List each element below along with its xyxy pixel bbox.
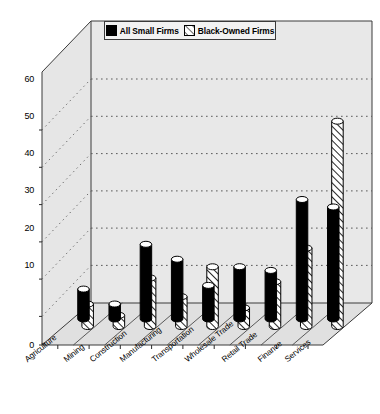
y-tick-label: 20 (12, 224, 34, 233)
chart-legend: All Small Firms Black-Owned Firms (104, 21, 276, 40)
solid-black-swatch-icon (106, 25, 117, 36)
y-tick-label: 40 (12, 149, 34, 158)
bar-transportation-all-small-firms (203, 282, 215, 322)
legend-label-black-owned-firms: Black-Owned Firms (198, 26, 275, 36)
bar-finance-all-small-firms (296, 196, 308, 321)
bar-mining-all-small-firms (109, 301, 121, 322)
bar-retail-trade-all-small-firms (265, 267, 277, 322)
legend-entry-black-owned-firms: Black-Owned Firms (184, 25, 275, 36)
bar-chart-3d: 60 50 40 30 20 10 0 Agriculture Mining C… (0, 0, 380, 414)
bar-manufacturing-all-small-firms (171, 256, 183, 322)
bar-construction-all-small-firms (140, 241, 152, 322)
bar-wholesale-trade-all-small-firms (234, 264, 246, 322)
bar-agriculture-all-small-firms (78, 286, 90, 322)
legend-entry-all-small-firms: All Small Firms (106, 25, 179, 36)
y-tick-label: 0 (12, 341, 34, 350)
y-tick-label: 30 (12, 186, 34, 195)
bar-services-all-small-firms (328, 204, 340, 322)
hatched-swatch-icon (184, 25, 195, 36)
y-tick-label: 10 (12, 261, 34, 270)
y-tick-label: 50 (12, 112, 34, 121)
y-tick-label: 60 (12, 75, 34, 84)
legend-label-all-small-firms: All Small Firms (120, 26, 179, 36)
